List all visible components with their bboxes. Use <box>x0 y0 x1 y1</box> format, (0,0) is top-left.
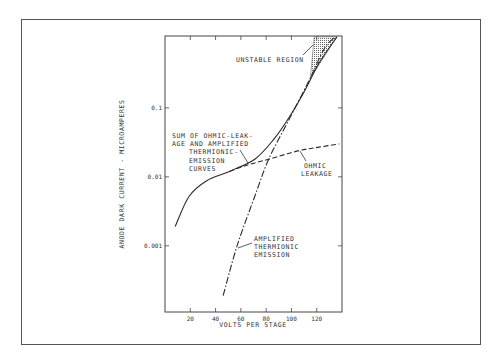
x-tick-label: 100 <box>286 315 297 322</box>
annotation-text: AGE AND AMPLIFIED <box>172 140 249 148</box>
annotation-text: LEAKAGE <box>301 170 333 178</box>
annotation-leader-line <box>238 243 252 248</box>
annotation-text: OHMIC <box>304 162 327 170</box>
annotation-text: THERMIONIC <box>254 243 299 251</box>
y-tick-label: 0.1 <box>151 104 162 111</box>
y-tick-label: 0.01 <box>148 173 163 180</box>
x-tick-label: 20 <box>187 315 195 322</box>
annotation-thermionic: AMPLIFIEDTHERMIONICEMISSION <box>238 235 299 259</box>
annotation-text: THERMIONIC- <box>189 148 239 156</box>
y-tick-label: 0.001 <box>144 242 162 249</box>
annotation-text: SUM OF OHMIC-LEAK- <box>172 132 253 140</box>
annotation-ohmic: OHMICLEAKAGE <box>300 151 333 178</box>
x-tick-label: 120 <box>311 315 322 322</box>
annotation-leader-line <box>303 45 313 55</box>
axes: 204060801001200.0010.010.1 <box>144 36 342 322</box>
annotation-text: CURVES <box>189 165 216 173</box>
annotation-text: EMISSION <box>189 157 225 165</box>
annotation-text: AMPLIFIED <box>254 235 295 243</box>
annotation-leader-line <box>240 150 248 163</box>
annotation-text: UNSTABLE REGION <box>236 56 304 64</box>
annotation-leader-line <box>300 151 306 161</box>
x-axis-label: VOLTS PER STAGE <box>219 321 287 329</box>
annotation-text: EMISSION <box>254 251 290 259</box>
annotation-unstable: UNSTABLE REGION <box>236 45 313 64</box>
chart: 204060801001200.0010.010.1 VOLTS PER STA… <box>0 0 501 364</box>
y-axis-label: ANODE DARK CURRENT - MICROAMPERES <box>118 100 126 249</box>
